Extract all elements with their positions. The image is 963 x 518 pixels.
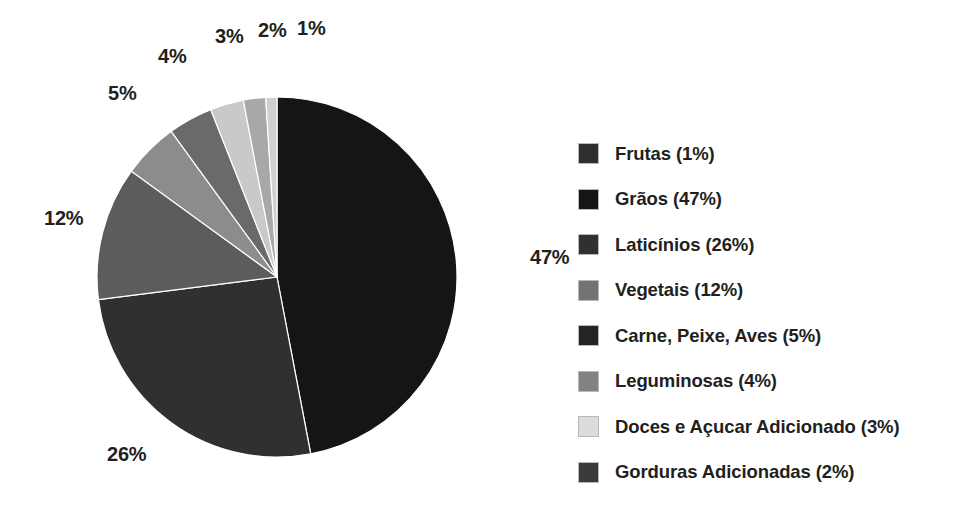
legend-swatch-doces-acucar-adicionado — [578, 416, 599, 437]
legend-swatch-frutas — [578, 143, 599, 164]
legend-item-laticinios[interactable]: Laticínios (26%) — [578, 222, 963, 268]
pie-slice-graos[interactable] — [277, 97, 457, 454]
value-label-3: 3% — [215, 26, 244, 46]
legend-item-vegetais[interactable]: Vegetais (12%) — [578, 268, 963, 314]
pie-chart-figure: 47%26%12%5%4%3%2%1% Frutas (1%)Grãos (47… — [0, 0, 963, 518]
legend-swatch-vegetais — [578, 280, 599, 301]
pie-slice-group — [97, 97, 457, 457]
value-label-2: 2% — [258, 20, 287, 40]
legend-item-doces-acucar-adicionado[interactable]: Doces e Açucar Adicionado (3%) — [578, 404, 963, 450]
chart-legend: Frutas (1%)Grãos (47%)Laticínios (26%)Ve… — [578, 131, 963, 495]
legend-label-gorduras-adicionadas: Gorduras Adicionadas (2%) — [615, 461, 854, 483]
value-label-26: 26% — [107, 444, 146, 464]
legend-swatch-leguminosas — [578, 371, 599, 392]
pie-svg — [0, 0, 580, 518]
legend-label-laticinios: Laticínios (26%) — [615, 234, 754, 256]
legend-label-carne-peixe-aves: Carne, Peixe, Aves (5%) — [615, 325, 821, 347]
value-label-47: 47% — [530, 247, 569, 267]
value-label-12: 12% — [44, 208, 83, 228]
pie-plot-area: 47%26%12%5%4%3%2%1% — [0, 0, 580, 518]
legend-swatch-laticinios — [578, 234, 599, 255]
legend-swatch-graos — [578, 189, 599, 210]
legend-item-graos[interactable]: Grãos (47%) — [578, 177, 963, 223]
value-label-1: 1% — [297, 18, 326, 38]
legend-label-frutas: Frutas (1%) — [615, 143, 715, 165]
legend-label-leguminosas: Leguminosas (4%) — [615, 370, 777, 392]
value-label-4: 4% — [158, 46, 187, 66]
legend-item-gorduras-adicionadas[interactable]: Gorduras Adicionadas (2%) — [578, 450, 963, 496]
legend-label-vegetais: Vegetais (12%) — [615, 279, 743, 301]
legend-label-graos: Grãos (47%) — [615, 188, 722, 210]
value-label-5: 5% — [108, 83, 137, 103]
legend-swatch-carne-peixe-aves — [578, 325, 599, 346]
legend-item-carne-peixe-aves[interactable]: Carne, Peixe, Aves (5%) — [578, 313, 963, 359]
legend-item-frutas[interactable]: Frutas (1%) — [578, 131, 963, 177]
legend-swatch-gorduras-adicionadas — [578, 462, 599, 483]
pie-slice-laticinios[interactable] — [98, 277, 310, 457]
legend-label-doces-acucar-adicionado: Doces e Açucar Adicionado (3%) — [615, 416, 900, 438]
legend-item-leguminosas[interactable]: Leguminosas (4%) — [578, 359, 963, 405]
